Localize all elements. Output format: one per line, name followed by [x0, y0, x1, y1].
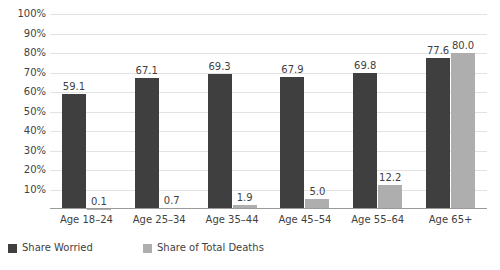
x-axis-category-label: Age 55–64	[341, 214, 414, 226]
bar-value-label: 1.9	[229, 193, 261, 203]
bar-group: 69.31.9	[208, 14, 257, 209]
gridline	[50, 73, 487, 74]
y-axis-tick-label: 20%	[24, 165, 46, 175]
bar-value-label: 0.7	[156, 196, 188, 206]
y-axis-tick-label: 90%	[24, 29, 46, 39]
legend-item-label: Share Worried	[22, 242, 93, 254]
x-axis-category-label: Age 25–34	[123, 214, 196, 226]
bar-chart: 100%90%80%70%60%50%40%30%20%10% 59.10.16…	[0, 0, 500, 270]
gridline	[50, 34, 487, 35]
bar-value-label: 0.1	[83, 197, 115, 207]
bar-share-worried[interactable]	[208, 74, 232, 209]
x-axis-category-label: Age 45–54	[269, 214, 342, 226]
bar-group: 69.812.2	[353, 14, 402, 209]
gridline	[50, 190, 487, 191]
legend-item[interactable]: Share Worried	[8, 242, 93, 254]
y-axis-tick-label: 30%	[24, 146, 46, 156]
x-axis-line	[50, 208, 487, 209]
bar-value-label: 5.0	[301, 187, 333, 197]
x-axis-categories: Age 18–24Age 25–34Age 35–44Age 45–54Age …	[50, 212, 487, 228]
bar-group: 67.95.0	[280, 14, 329, 209]
bar-group: 67.10.7	[135, 14, 184, 209]
x-axis-category-label: Age 35–44	[196, 214, 269, 226]
gridline	[50, 112, 487, 113]
gridline	[50, 92, 487, 93]
y-axis-tick-label: 100%	[17, 9, 46, 19]
legend-item-label: Share of Total Deaths	[157, 242, 264, 254]
legend-swatch-icon	[143, 244, 152, 253]
y-axis: 100%90%80%70%60%50%40%30%20%10%	[0, 14, 46, 209]
x-axis-category-label: Age 65+	[414, 214, 487, 226]
bar-group: 77.680.0	[426, 14, 475, 209]
bar-value-label: 59.1	[58, 82, 90, 92]
bar-value-label: 69.8	[349, 61, 381, 71]
bar-share-worried[interactable]	[353, 73, 377, 209]
gridline	[50, 170, 487, 171]
bar-share-of-total-deaths[interactable]	[451, 53, 475, 209]
plot-area: 59.10.167.10.769.31.967.95.069.812.277.6…	[50, 14, 487, 209]
y-axis-tick-label: 60%	[24, 87, 46, 97]
bar-value-label: 12.2	[374, 173, 406, 183]
gridline	[50, 151, 487, 152]
bar-value-label: 67.9	[276, 65, 308, 75]
legend-item[interactable]: Share of Total Deaths	[143, 242, 264, 254]
x-axis-category-label: Age 18–24	[50, 214, 123, 226]
bar-group: 59.10.1	[62, 14, 111, 209]
bar-share-worried[interactable]	[62, 94, 86, 209]
y-axis-tick-label: 50%	[24, 107, 46, 117]
y-axis-tick-label: 10%	[24, 185, 46, 195]
y-axis-tick-label: 80%	[24, 48, 46, 58]
y-axis-tick-label: 40%	[24, 126, 46, 136]
gridline	[50, 14, 487, 15]
y-axis-tick-label: 70%	[24, 68, 46, 78]
bar-share-worried[interactable]	[426, 58, 450, 209]
legend-swatch-icon	[8, 244, 17, 253]
bar-value-label: 67.1	[131, 66, 163, 76]
bar-value-label: 80.0	[447, 41, 479, 51]
bar-value-label: 69.3	[204, 62, 236, 72]
gridline	[50, 131, 487, 132]
bar-share-of-total-deaths[interactable]	[378, 185, 402, 209]
bar-share-worried[interactable]	[135, 78, 159, 209]
